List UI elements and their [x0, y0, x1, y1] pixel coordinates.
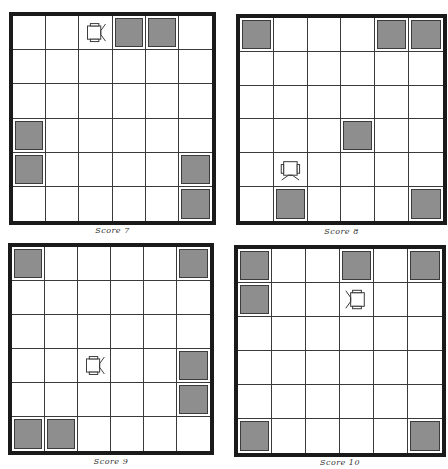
grid-cell — [45, 417, 78, 451]
grid-cell — [274, 18, 308, 52]
grid-cell — [111, 383, 144, 417]
grid-cell — [177, 281, 210, 315]
grid-cell — [79, 16, 112, 50]
caption-score-7: Score 7 — [9, 226, 216, 235]
grid-cell — [306, 317, 340, 351]
grid-cell — [306, 351, 340, 385]
obstacle-block — [240, 251, 269, 280]
grid-cell — [12, 315, 45, 349]
obstacle-block — [240, 421, 269, 451]
obstacle-block — [181, 155, 210, 184]
grid-cell — [408, 419, 442, 453]
grid-cell — [12, 383, 45, 417]
grid-cell — [146, 187, 179, 221]
grid-cell — [341, 52, 375, 86]
grid-cell — [374, 283, 408, 317]
grid-cell — [408, 351, 442, 385]
grid-cell — [113, 84, 146, 118]
grid-cell — [238, 351, 272, 385]
grid-cell — [177, 315, 210, 349]
grid-cell — [113, 119, 146, 153]
grid-cell — [177, 247, 210, 281]
grid-cell — [113, 153, 146, 187]
grid-cell — [79, 50, 112, 84]
grid-cell — [375, 18, 409, 52]
grid-cell — [272, 351, 306, 385]
grid-cell — [272, 385, 306, 419]
grid-cell — [144, 349, 177, 383]
grid-cell — [240, 119, 274, 153]
grid-cell — [78, 315, 111, 349]
grid-cell — [274, 153, 308, 187]
grid-cell — [179, 119, 212, 153]
grid-cell — [179, 84, 212, 118]
grid-cell — [144, 281, 177, 315]
caption-score-8: Score 8 — [236, 227, 447, 236]
grid-cell — [306, 283, 340, 317]
grid-cell — [375, 153, 409, 187]
grid-cell — [146, 16, 179, 50]
grid-cell — [340, 317, 374, 351]
obstacle-block — [377, 20, 406, 49]
grid-cell — [340, 419, 374, 453]
grid-cell — [308, 18, 342, 52]
robot-icon — [78, 349, 110, 382]
grid-cell — [308, 52, 342, 86]
grid-cell — [179, 16, 212, 50]
grid-cell — [78, 417, 111, 451]
grid-cell — [409, 187, 443, 221]
grid-world-score-7 — [9, 12, 216, 225]
grid-world-score-10 — [234, 245, 446, 457]
grid-cell — [45, 349, 78, 383]
grid-cell — [12, 417, 45, 451]
grid-cell — [308, 187, 342, 221]
grid-cell — [340, 385, 374, 419]
grid-cell — [274, 119, 308, 153]
grid-cell — [113, 187, 146, 221]
grid-cell — [13, 153, 46, 187]
grid-cell — [240, 18, 274, 52]
grid-cell — [78, 281, 111, 315]
grid-cell — [45, 247, 78, 281]
grid-cell — [13, 187, 46, 221]
grid-cell — [308, 86, 342, 120]
grid-cell — [272, 283, 306, 317]
grid-cell — [274, 187, 308, 221]
grid-cell — [306, 249, 340, 283]
grid-cell — [46, 16, 79, 50]
grid-world-score-9 — [8, 243, 214, 455]
grid-cell — [238, 317, 272, 351]
grid-cell — [341, 18, 375, 52]
grid-cell — [111, 417, 144, 451]
grid-cell — [46, 187, 79, 221]
grid-cell — [177, 383, 210, 417]
grid-cell — [409, 119, 443, 153]
grid-cell — [78, 349, 111, 383]
obstacle-block — [240, 285, 269, 314]
grid-cell — [374, 385, 408, 419]
grid-cell — [111, 315, 144, 349]
grid-cell — [146, 153, 179, 187]
grid-cell — [238, 419, 272, 453]
grid-cell — [240, 52, 274, 86]
grid-cell — [12, 247, 45, 281]
grid-cell — [375, 52, 409, 86]
grid-cell — [408, 385, 442, 419]
grid-cell — [79, 84, 112, 118]
grid-cell — [340, 249, 374, 283]
obstacle-block — [115, 18, 143, 47]
grid-cell — [78, 383, 111, 417]
grid-cell — [408, 283, 442, 317]
robot-icon — [79, 16, 111, 49]
grid-cell — [409, 153, 443, 187]
grid-cell — [240, 86, 274, 120]
grid-cell — [409, 86, 443, 120]
grid-cell — [79, 119, 112, 153]
grid-cell — [146, 119, 179, 153]
grid-cell — [13, 119, 46, 153]
grid-cell — [78, 247, 111, 281]
grid-cell — [12, 281, 45, 315]
grid-cell — [374, 249, 408, 283]
obstacle-block — [242, 20, 271, 49]
grid-cell — [408, 249, 442, 283]
